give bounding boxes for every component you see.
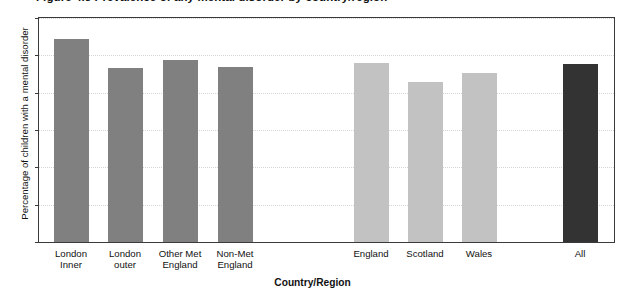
gridline [39, 55, 614, 56]
y-axis-tick [35, 55, 39, 56]
bar [354, 63, 389, 242]
x-axis-category-label: All [540, 248, 620, 259]
bar [563, 64, 598, 242]
y-axis-tick [35, 242, 39, 243]
plot-inner [39, 18, 614, 242]
bar [462, 73, 497, 242]
x-axis-title: Country/Region [0, 277, 625, 288]
bar [408, 82, 443, 242]
y-axis-tick [35, 130, 39, 131]
bar-chart-figure: Percentage of children with a mental dis… [0, 0, 625, 294]
y-axis-tick [35, 93, 39, 94]
y-axis-title: Percentage of children with a mental dis… [19, 4, 30, 244]
bar [108, 68, 143, 242]
bar [54, 39, 89, 242]
gridline [39, 18, 614, 19]
plot-area [38, 17, 615, 243]
y-axis-tick [35, 18, 39, 19]
y-axis-tick [35, 205, 39, 206]
x-axis-category-label: Wales [439, 248, 519, 259]
bar [218, 67, 253, 242]
x-axis-category-label: Non-Met England [195, 248, 275, 271]
bar [163, 60, 198, 242]
y-axis-tick [35, 167, 39, 168]
